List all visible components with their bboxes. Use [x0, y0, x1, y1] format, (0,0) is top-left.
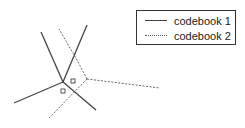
legend-label: codebook 1	[174, 14, 231, 28]
solid-line-icon	[145, 20, 167, 21]
legend-item-codebook1: codebook 1	[137, 14, 235, 28]
legend-label: codebook 2	[174, 29, 231, 43]
codebook1-edge	[14, 82, 63, 103]
codebook1-boundaries	[14, 25, 96, 110]
dashed-line-icon	[145, 35, 167, 36]
legend-item-codebook2: codebook 2	[137, 29, 235, 43]
codebook1-edge	[63, 82, 96, 110]
codevector-square	[71, 79, 75, 83]
legend: codebook 1 codebook 2	[136, 10, 236, 45]
codebook1-edge	[63, 25, 87, 82]
codevector-square	[61, 89, 65, 93]
codebook1-edge	[41, 32, 63, 82]
codebook2-edge	[87, 79, 160, 88]
